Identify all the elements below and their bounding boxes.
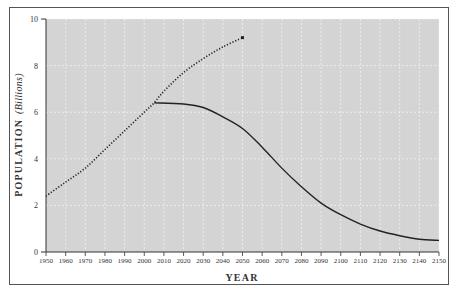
x-tick-label: 1990	[118, 257, 133, 265]
y-axis-title-unit: (Billions)	[13, 73, 25, 114]
x-tick-label: 1980	[98, 257, 113, 265]
x-tick-label: 2060	[255, 257, 270, 265]
y-tick-label: 6	[34, 108, 38, 117]
x-tick-label: 2150	[432, 257, 447, 265]
x-axis-title: YEAR	[225, 272, 258, 283]
y-axis-title-main: POPULATION	[13, 119, 24, 197]
x-tick-label: 2080	[294, 257, 309, 265]
y-axis-title: POPULATION(Billions)	[13, 73, 25, 197]
y-tick-label: 10	[30, 15, 38, 24]
x-tick-label: 2090	[314, 257, 329, 265]
y-tick-label: 2	[34, 201, 38, 210]
x-tick-label: 2120	[373, 257, 388, 265]
x-tick-label: 2010	[157, 257, 172, 265]
x-axis-ticks: 1950196019701980199020002010202020302040…	[39, 252, 447, 265]
x-tick-label: 2030	[196, 257, 211, 265]
y-tick-label: 4	[34, 155, 38, 164]
population-chart: 1950196019701980199020002010202020302040…	[0, 0, 459, 300]
x-tick-label: 1960	[59, 257, 74, 265]
x-tick-label: 2050	[236, 257, 251, 265]
x-tick-label: 2020	[177, 257, 192, 265]
x-tick-label: 1950	[39, 257, 54, 265]
x-tick-label: 2110	[354, 257, 368, 265]
x-tick-label: 2070	[275, 257, 290, 265]
x-tick-label: 2000	[137, 257, 152, 265]
x-tick-label: 2040	[216, 257, 231, 265]
y-tick-label: 8	[34, 62, 38, 71]
x-tick-label: 2100	[334, 257, 349, 265]
y-axis-ticks: 0246810	[30, 15, 38, 257]
x-tick-label: 2140	[412, 257, 427, 265]
y-tick-label: 0	[34, 248, 38, 257]
x-tick-label: 2130	[393, 257, 408, 265]
series-end-marker	[241, 36, 244, 39]
x-tick-label: 1970	[78, 257, 93, 265]
